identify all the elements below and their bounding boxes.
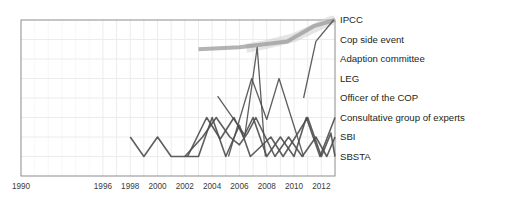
series-line bbox=[218, 47, 266, 156]
series-label-cop-side-event: Cop side event bbox=[340, 34, 404, 45]
x-tick-label: 2004 bbox=[203, 182, 222, 191]
series-label-sbi: SBI bbox=[340, 131, 355, 142]
chart-container: 1990199619982000200220042006200820102012… bbox=[0, 0, 505, 203]
x-axis-tick-labels: 1990199619982000200220042006200820102012 bbox=[12, 182, 331, 191]
series-label-sbsta: SBSTA bbox=[340, 151, 371, 162]
line-chart: 1990199619982000200220042006200820102012… bbox=[0, 0, 505, 203]
x-tick-label: 1990 bbox=[12, 182, 31, 191]
series-label-adaption-committee: Adaption committee bbox=[340, 53, 425, 64]
x-tick-label: 1998 bbox=[121, 182, 140, 191]
series-lines bbox=[130, 20, 335, 157]
series-label-ipcc: IPCC bbox=[340, 14, 363, 25]
x-tick-label: 2000 bbox=[148, 182, 167, 191]
x-tick-label: 2010 bbox=[285, 182, 304, 191]
x-tick-label: 2006 bbox=[230, 182, 249, 191]
series-label-consultative-group-of-experts: Consultative group of experts bbox=[340, 112, 465, 123]
series-legend-labels: IPCCCop side eventAdaption committeeLEGO… bbox=[340, 14, 465, 162]
x-tick-label: 2012 bbox=[312, 182, 331, 191]
x-tick-label: 1996 bbox=[94, 182, 113, 191]
x-tick-label: 2008 bbox=[258, 182, 277, 191]
x-tick-label: 2002 bbox=[176, 182, 195, 191]
series-label-leg: LEG bbox=[340, 73, 359, 84]
series-label-officer-of-the-cop: Officer of the COP bbox=[340, 92, 418, 103]
